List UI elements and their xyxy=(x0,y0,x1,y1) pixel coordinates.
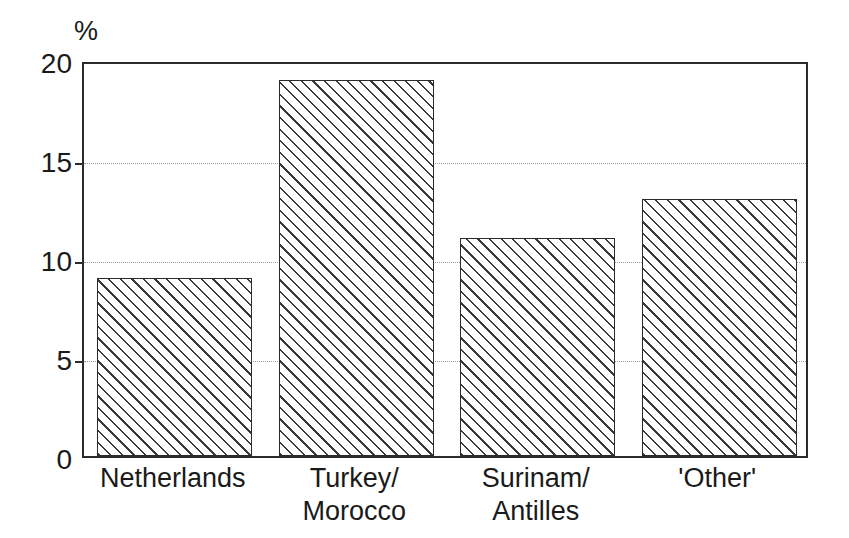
x-axis-label-line: 'Other' xyxy=(627,462,809,495)
x-axis-label-line: Surinam/ xyxy=(445,462,627,495)
bar-1 xyxy=(279,80,434,456)
x-axis-label-line: Antilles xyxy=(445,495,627,528)
y-tick-mark-5 xyxy=(75,361,84,363)
bar-chart: % 05101520 NetherlandsTurkey/MoroccoSuri… xyxy=(0,0,849,538)
x-axis-labels: NetherlandsTurkey/MoroccoSurinam/Antille… xyxy=(82,462,808,538)
y-axis-unit-label: % xyxy=(74,18,99,45)
x-axis-label-1: Turkey/Morocco xyxy=(264,462,446,528)
bar-2 xyxy=(460,238,615,456)
y-tick-mark-10 xyxy=(75,262,84,264)
x-axis-label-0: Netherlands xyxy=(82,462,264,495)
y-tick-label-15: 15 xyxy=(41,149,72,177)
x-axis-label-2: Surinam/Antilles xyxy=(445,462,627,528)
y-tick-label-10: 10 xyxy=(41,248,72,276)
x-axis-label-3: 'Other' xyxy=(627,462,809,495)
y-tick-label-0: 0 xyxy=(56,446,72,474)
bar-0 xyxy=(97,278,252,456)
x-axis-label-line: Netherlands xyxy=(82,462,264,495)
plot-area: 05101520 xyxy=(82,62,808,458)
x-axis-label-line: Turkey/ xyxy=(264,462,446,495)
bars-layer xyxy=(84,64,806,456)
y-tick-label-5: 5 xyxy=(56,347,72,375)
x-axis-label-line: Morocco xyxy=(264,495,446,528)
plot-inner: 05101520 xyxy=(84,64,806,456)
bar-3 xyxy=(642,199,797,456)
y-tick-label-20: 20 xyxy=(41,50,72,78)
y-tick-mark-15 xyxy=(75,163,84,165)
